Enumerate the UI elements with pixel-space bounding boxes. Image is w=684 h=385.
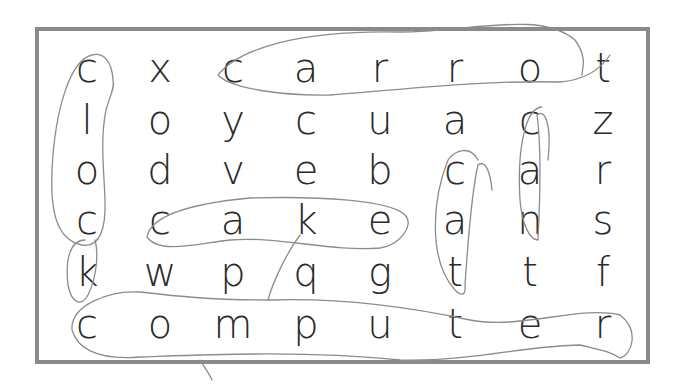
grid-cell[interactable]: d: [135, 145, 185, 195]
grid-cell[interactable]: a: [505, 145, 555, 195]
grid-cell[interactable]: t: [430, 299, 480, 349]
grid-cell[interactable]: f: [578, 247, 628, 297]
grid-cell[interactable]: u: [355, 299, 405, 349]
grid-cell[interactable]: c: [281, 95, 331, 145]
grid-cell[interactable]: c: [430, 145, 480, 195]
letter-grid: cxcarrotloycuaczodvebcarccakeanskwpqgttf…: [0, 0, 684, 385]
grid-cell[interactable]: r: [430, 43, 480, 93]
grid-cell[interactable]: n: [505, 195, 555, 245]
grid-cell[interactable]: o: [135, 95, 185, 145]
grid-cell[interactable]: g: [355, 247, 405, 297]
grid-cell[interactable]: p: [208, 247, 258, 297]
grid-cell[interactable]: k: [62, 247, 112, 297]
grid-cell[interactable]: l: [62, 95, 112, 145]
grid-cell[interactable]: e: [355, 195, 405, 245]
grid-cell[interactable]: o: [62, 145, 112, 195]
grid-cell[interactable]: c: [208, 43, 258, 93]
grid-cell[interactable]: m: [208, 299, 258, 349]
grid-cell[interactable]: a: [430, 95, 480, 145]
grid-cell[interactable]: a: [430, 195, 480, 245]
grid-cell[interactable]: w: [135, 247, 185, 297]
grid-cell[interactable]: c: [62, 195, 112, 245]
grid-cell[interactable]: c: [505, 95, 555, 145]
grid-cell[interactable]: o: [135, 299, 185, 349]
grid-cell[interactable]: x: [135, 43, 185, 93]
grid-cell[interactable]: t: [505, 247, 555, 297]
grid-cell[interactable]: c: [135, 195, 185, 245]
grid-cell[interactable]: r: [578, 299, 628, 349]
grid-cell[interactable]: r: [578, 145, 628, 195]
grid-cell[interactable]: t: [430, 247, 480, 297]
grid-cell[interactable]: p: [281, 299, 331, 349]
grid-cell[interactable]: t: [578, 43, 628, 93]
grid-cell[interactable]: q: [281, 247, 331, 297]
grid-cell[interactable]: o: [505, 43, 555, 93]
grid-cell[interactable]: r: [355, 43, 405, 93]
grid-cell[interactable]: c: [62, 299, 112, 349]
grid-cell[interactable]: a: [208, 195, 258, 245]
grid-cell[interactable]: k: [281, 195, 331, 245]
grid-cell[interactable]: s: [578, 195, 628, 245]
grid-cell[interactable]: u: [355, 95, 405, 145]
grid-cell[interactable]: v: [208, 145, 258, 195]
grid-cell[interactable]: b: [355, 145, 405, 195]
grid-cell[interactable]: e: [505, 299, 555, 349]
grid-cell[interactable]: c: [62, 43, 112, 93]
grid-cell[interactable]: z: [578, 95, 628, 145]
grid-cell[interactable]: y: [208, 95, 258, 145]
grid-cell[interactable]: a: [281, 43, 331, 93]
grid-cell[interactable]: e: [281, 145, 331, 195]
